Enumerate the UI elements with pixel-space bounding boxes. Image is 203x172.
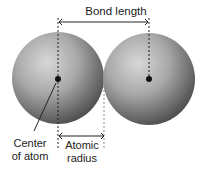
left-center-dot — [55, 76, 61, 82]
radius-label-line1: Atomic — [60, 139, 104, 152]
center-label-line1: Center — [8, 137, 52, 150]
center-label-line2: of atom — [8, 150, 52, 163]
atomic-radius-label: Atomic radius — [60, 139, 104, 165]
bond-length-label: Bond length — [76, 5, 156, 18]
radius-label-line2: radius — [60, 152, 104, 165]
right-center-dot — [146, 76, 152, 82]
center-of-atom-label: Center of atom — [8, 137, 52, 163]
